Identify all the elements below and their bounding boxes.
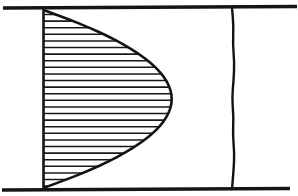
bottom-wall bbox=[2, 189, 290, 191]
figure-canvas bbox=[0, 0, 298, 196]
velocity-profile-figure bbox=[0, 0, 298, 196]
top-wall bbox=[3, 7, 297, 9]
